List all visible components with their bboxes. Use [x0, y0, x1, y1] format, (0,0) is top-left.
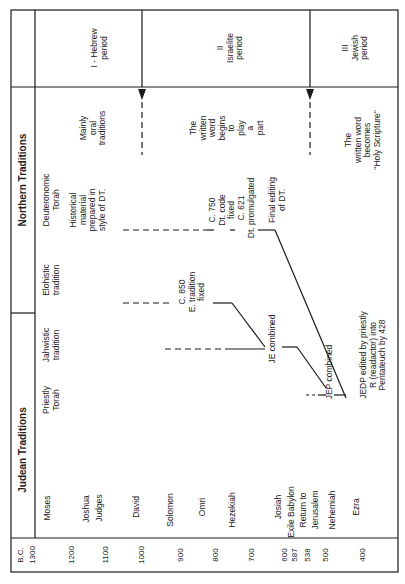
- note-written: The written word begins to play a part: [189, 115, 265, 140]
- year-800: 800: [212, 548, 221, 561]
- event-solomon: Solomon: [166, 493, 176, 527]
- event-return: Return to: [299, 493, 309, 528]
- event-judges: Judges: [95, 494, 105, 521]
- year-1000: 1000: [138, 546, 147, 564]
- annot-c850: C. 850 E. tradition fixed: [178, 272, 207, 313]
- year-700: 700: [248, 548, 257, 561]
- annot-c621: C. 621 Dt. promulgated: [237, 178, 256, 238]
- year-400: 400: [359, 548, 368, 561]
- col-priestly: Priestly Torah: [42, 386, 61, 414]
- event-nehemiah: Nehemiah: [328, 491, 338, 530]
- era-label: B.C.: [17, 547, 26, 563]
- event-jerusalem: Jerusalem: [311, 490, 321, 529]
- annot-historical: Historical material prepared in style of…: [69, 188, 107, 231]
- period-israelite: II Israelite period: [216, 33, 245, 63]
- event-omri: Omri: [198, 498, 208, 516]
- header-northern: Northern Traditions: [17, 134, 28, 227]
- col-jahwistic: Jahwistic tradition: [42, 328, 61, 362]
- annot-c750: C. 750 Dt. code fixed: [208, 194, 237, 226]
- note-scripture: The written word becomes "Holy Scripture…: [344, 110, 382, 169]
- event-exile: Exile Babylon: [287, 486, 297, 538]
- year-1100: 1100: [102, 546, 111, 563]
- year-1300: 1300: [29, 546, 38, 564]
- event-josiah: Josiah: [274, 495, 284, 520]
- annot-final-editing: Final editing of DT.: [268, 177, 287, 223]
- col-deuteronomic: Deuteronomic Torah: [42, 174, 61, 227]
- year-587: 587: [291, 548, 300, 561]
- annot-je-combined: JE combined: [268, 314, 278, 363]
- arrow-down-icon: [138, 89, 146, 100]
- year-1200: 1200: [68, 546, 77, 564]
- event-david: David: [132, 496, 142, 518]
- year-900: 900: [177, 548, 186, 561]
- event-joshua: Joshua: [82, 495, 92, 522]
- event-hezekiah: Hezekiah: [228, 492, 238, 527]
- event-moses: Moses: [43, 495, 53, 520]
- year-538: 538: [304, 548, 313, 561]
- annot-jedp: JEDP edited by priestly R (readactor) in…: [359, 311, 388, 399]
- period-jewish: III Jewish period: [341, 35, 370, 61]
- year-500: 500: [322, 548, 331, 561]
- pentateuch-traditions-diagram: Northern Traditions Judean Traditions Pr…: [0, 0, 405, 584]
- annot-jep-combined: JEP combined: [325, 345, 335, 400]
- period-hebrew: I - Hebrew period: [90, 28, 109, 67]
- year-600: 600: [281, 548, 290, 561]
- event-ezra: Ezra: [352, 498, 362, 515]
- arrow-down-icon: [306, 89, 314, 100]
- note-oral: Mainly oral traditions: [79, 111, 108, 146]
- col-elohistic: Elohistic tradition: [42, 264, 61, 296]
- header-judean: Judean Traditions: [17, 407, 28, 493]
